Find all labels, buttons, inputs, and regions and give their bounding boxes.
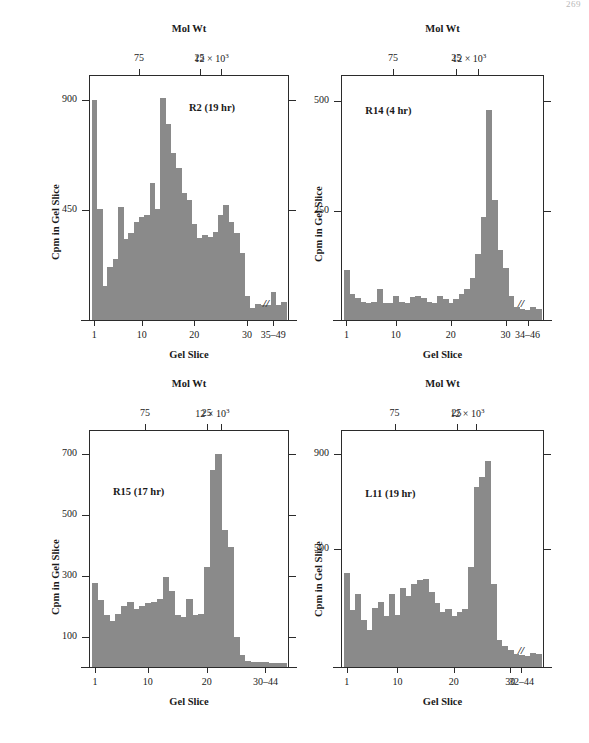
series-label: R15 (17 hr) (113, 486, 164, 497)
histogram-bar (423, 579, 429, 667)
histogram-bar (180, 617, 186, 667)
histogram-bar (372, 608, 378, 667)
histogram-bar (445, 609, 451, 667)
histogram-bar (244, 296, 250, 321)
y-tick-mark (334, 211, 341, 212)
y-tick-mark-mirror (289, 454, 296, 455)
molwt-tick-label: 12 × 103 (452, 52, 508, 64)
histogram-bar (524, 656, 530, 667)
histogram-bar (388, 303, 394, 320)
histogram-bar (227, 547, 233, 667)
molwt-tick-mark (478, 69, 479, 75)
histogram-bar (171, 153, 177, 320)
histogram-bar (415, 296, 421, 320)
histogram-bar (163, 577, 169, 667)
histogram-bar (519, 655, 525, 667)
histogram-bar (186, 200, 192, 320)
histogram-bar (486, 110, 492, 320)
y-tick-mark (82, 515, 89, 516)
y-tick-label: 700 (37, 447, 77, 458)
histogram-bar (233, 637, 239, 667)
histogram-bar (110, 621, 116, 667)
histogram-bar (239, 253, 245, 320)
histogram-bar (134, 222, 140, 320)
histogram-bar (192, 224, 198, 320)
plot-frame (341, 75, 544, 320)
y-tick-mark (334, 101, 341, 102)
histogram-bar (97, 209, 103, 320)
x-tick-label: 20 (184, 676, 230, 687)
x-tick-mark (347, 668, 348, 673)
histogram-bar (349, 610, 355, 667)
x-tick-label: 32–44 (498, 676, 544, 687)
molwt-tick-mark (395, 424, 396, 430)
histogram-bar (530, 307, 536, 320)
x-tick-mark (142, 321, 143, 326)
molwt-tick-label: 75 (375, 407, 415, 418)
x-tick-label: 30 (224, 329, 270, 340)
y-tick-mark-mirror (544, 101, 551, 102)
histogram-bar (464, 289, 470, 320)
histogram-bar (366, 630, 372, 667)
histogram-bar (411, 584, 417, 667)
molwt-tick-label: 25 (437, 407, 477, 418)
histogram-bar (204, 567, 210, 667)
x-tick-mark (397, 668, 398, 673)
x-axis-baseline (333, 667, 552, 668)
histogram-bar (453, 299, 459, 320)
x-axis-baseline (333, 320, 552, 321)
histogram-bar (525, 310, 531, 320)
y-tick-mark-mirror (289, 515, 296, 516)
histogram-bar (280, 663, 286, 667)
molwt-tick-mark (456, 69, 457, 75)
histogram-bar (174, 615, 180, 667)
x-tick-label: 30 (483, 329, 529, 340)
y-tick-label: 500 (289, 542, 329, 553)
histogram-bar (255, 304, 261, 320)
x-tick-mark (528, 321, 529, 326)
histogram-bar (497, 250, 503, 320)
histogram-bar (406, 596, 412, 667)
x-tick-label: 1 (324, 676, 370, 687)
histogram-bar (145, 603, 151, 667)
molwt-tick-label: 12 × 103 (450, 407, 506, 419)
y-axis-title-cpm-in-gel-slice: Cpm in Gel Slice (50, 539, 61, 615)
histogram-bar (485, 461, 491, 667)
y-tick-mark-mirror (544, 211, 551, 212)
y-tick-mark-mirror (289, 637, 296, 638)
y-tick-mark-mirror (289, 100, 296, 101)
histogram-bar (155, 209, 161, 320)
histogram-bar (344, 573, 350, 667)
panel-r15: Mol Wt752512 × 1031003005007001102030–44… (0, 0, 589, 743)
histogram-bar (513, 654, 519, 667)
panel-l11: Mol Wt752512 × 103500900110203032–44//Ge… (0, 0, 589, 743)
histogram-bar (92, 100, 98, 321)
y-tick-mark (334, 549, 341, 550)
series-label: L11 (19 hr) (365, 488, 415, 499)
x-axis-title-gel-slice: Gel Slice (393, 349, 493, 360)
molwt-tick-mark (200, 69, 201, 75)
histogram-bar (118, 207, 124, 320)
x-tick-label: 1 (71, 329, 117, 340)
x-tick-label: 10 (374, 676, 420, 687)
molwt-tick-label: 75 (119, 52, 159, 63)
histogram-bar (344, 270, 350, 320)
histogram-bar (257, 662, 263, 667)
molwt-tick-mark (139, 69, 140, 75)
axis-break-marks-icon: // (518, 298, 524, 309)
x-tick-label: 20 (428, 329, 474, 340)
y-tick-mark-mirror (289, 576, 296, 577)
panel-r14: Mol Wt752512 × 103250500110203034–46//Ge… (0, 0, 589, 743)
top-axis-title-mol-wt: Mol Wt (149, 23, 229, 34)
histogram-bar (443, 299, 449, 320)
x-tick-label: 10 (119, 329, 165, 340)
histogram-bar (160, 98, 166, 320)
x-tick-label: 1 (323, 329, 369, 340)
molwt-tick-label: 25 (180, 52, 220, 63)
molwt-tick-mark (476, 424, 477, 430)
x-tick-mark (247, 321, 248, 326)
y-tick-label: 500 (37, 508, 77, 519)
x-tick-label: 20 (431, 676, 477, 687)
histogram-bar (271, 292, 277, 320)
histogram-bar (268, 663, 274, 667)
